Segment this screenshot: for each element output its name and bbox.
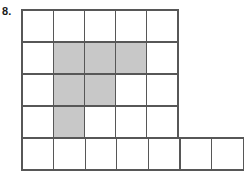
grid-cell-upper-r4c4 [116, 106, 147, 138]
grid-cell-fills [22, 10, 243, 170]
figure-root: 8. [0, 0, 249, 184]
grid-cell-upper-r1c5 [147, 10, 178, 42]
grid-cell-upper-r1c3 [84, 10, 115, 42]
grid-cell-bottom-r5c4 [117, 138, 149, 170]
grid-cell-upper-r4c3 [84, 106, 115, 138]
grid-cell-bottom-r5c1 [22, 138, 54, 170]
grid-cell-upper-r3c2 [53, 74, 84, 106]
grid-cell-upper-r2c2 [53, 42, 84, 74]
grid-cell-upper-r4c5 [147, 106, 178, 138]
grid-cell-upper-r2c3 [84, 42, 115, 74]
grid-cell-upper-r4c1 [22, 106, 53, 138]
grid-cell-bottom-r5c3 [85, 138, 117, 170]
grid-cell-upper-r3c5 [147, 74, 178, 106]
grid-cell-upper-r1c4 [116, 10, 147, 42]
grid-cell-upper-r3c3 [84, 74, 115, 106]
grid-cell-upper-r2c5 [147, 42, 178, 74]
grid-cell-upper-r1c1 [22, 10, 53, 42]
grid-cell-bottom-r5c5 [148, 138, 180, 170]
grid-cell-bottom-r5c2 [54, 138, 86, 170]
grid-cell-bottom-r5c6 [180, 138, 212, 170]
grid-cell-upper-r2c1 [22, 42, 53, 74]
grid-cell-upper-r4c2 [53, 106, 84, 138]
grid-cell-upper-r3c1 [22, 74, 53, 106]
grid-cell-upper-r1c2 [53, 10, 84, 42]
grid-cell-bottom-r5c7 [212, 138, 244, 170]
grid-figure [0, 0, 249, 184]
grid-cell-upper-r2c4 [116, 42, 147, 74]
grid-cell-upper-r3c4 [116, 74, 147, 106]
